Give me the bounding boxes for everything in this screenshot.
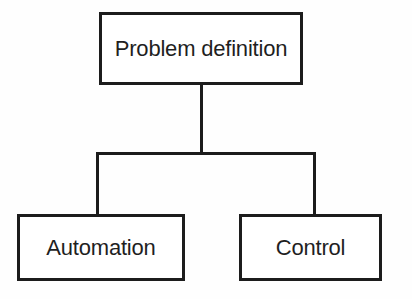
- connector-horizontal-bus: [96, 152, 316, 155]
- node-label-control: Control: [276, 237, 346, 259]
- node-label-problem-definition: Problem definition: [115, 38, 288, 60]
- node-automation[interactable]: Automation: [17, 214, 185, 281]
- node-control[interactable]: Control: [239, 214, 382, 281]
- diagram-canvas: Problem definition Automation Control: [0, 0, 412, 299]
- connector-drop-automation: [96, 152, 99, 216]
- connector-drop-control: [313, 152, 316, 216]
- node-label-automation: Automation: [46, 237, 155, 259]
- connector-root-stem: [200, 85, 203, 155]
- node-problem-definition[interactable]: Problem definition: [99, 12, 303, 85]
